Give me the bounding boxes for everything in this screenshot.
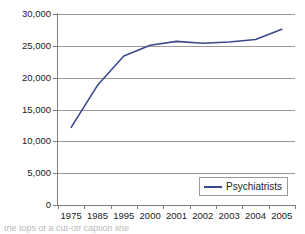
series-line-psychiatrists <box>71 29 282 127</box>
clipped-caption: the tops of a cut-off caption line <box>4 226 301 234</box>
line-chart: 30,000 25,000 20,000 15,000 10,000 5,000… <box>0 0 305 234</box>
clipped-caption-text: the tops of a cut-off caption line <box>4 226 129 234</box>
series-svg <box>0 0 305 234</box>
legend-line-swatch <box>204 186 222 188</box>
legend-label-psychiatrists: Psychiatrists <box>226 181 282 192</box>
legend[interactable]: Psychiatrists <box>199 177 288 196</box>
